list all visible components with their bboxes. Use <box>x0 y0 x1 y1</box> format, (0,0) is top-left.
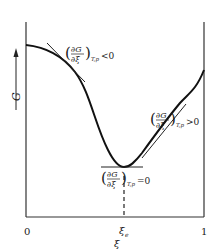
gibbs-curve <box>26 45 204 167</box>
x-axis-label: ξ <box>114 238 120 249</box>
svg-text:): ) <box>170 110 176 128</box>
svg-text:(: ( <box>101 169 107 187</box>
annot-bottom-rel: =0 <box>137 176 151 186</box>
x-tick-1: 1 <box>201 226 207 237</box>
arrow-up-icon <box>14 48 19 57</box>
annot-left-denom: ∂ξ <box>71 55 80 64</box>
gibbs-energy-diagram: G 0 ξ e 1 ξ ( ∂G ∂ξ ) T,p <0 ( ∂G ∂ξ ) T… <box>0 0 219 251</box>
x-tick-0: 0 <box>24 226 30 237</box>
annot-left-sub: T,p <box>91 56 100 63</box>
annot-bottom-sub: T,p <box>127 181 136 188</box>
annotation-right: ( ∂G ∂ξ ) T,p >0 <box>150 110 200 130</box>
x-tick-xie-sub: e <box>125 231 129 238</box>
svg-text:): ) <box>85 44 91 62</box>
svg-text:(: ( <box>65 44 71 62</box>
annot-right-sub: T,p <box>176 122 185 129</box>
annot-right-denom: ∂ξ <box>156 121 165 130</box>
annotation-left: ( ∂G ∂ξ ) T,p <0 <box>65 44 115 64</box>
annot-right-rel: >0 <box>186 117 200 127</box>
y-axis-label: G <box>10 92 23 101</box>
annot-left-rel: <0 <box>101 51 115 61</box>
annot-left-numer: ∂G <box>71 45 82 54</box>
annot-right-numer: ∂G <box>156 111 167 120</box>
annotation-bottom: ( ∂G ∂ξ ) T,p =0 <box>101 169 151 189</box>
svg-text:): ) <box>121 169 127 187</box>
svg-text:(: ( <box>150 110 156 128</box>
annot-bottom-numer: ∂G <box>107 170 118 179</box>
annot-bottom-denom: ∂ξ <box>107 180 116 189</box>
